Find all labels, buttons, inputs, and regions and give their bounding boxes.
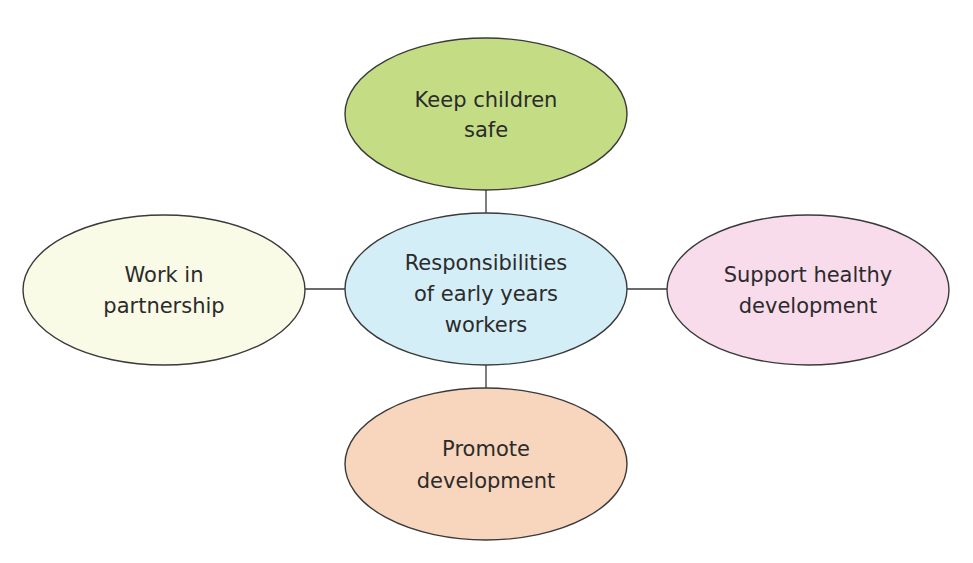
node-label-line: Keep children [415,88,558,112]
mind-map-diagram: Keep children safe Work in partnership R… [0,0,973,563]
node-label-line: Responsibilities [405,251,568,275]
node-center-responsibilities: Responsibilities of early years workers [345,213,627,365]
node-label-line: development [739,294,878,318]
node-label-line: Support healthy [724,263,893,287]
node-label-line: partnership [103,294,224,318]
node-label-line: safe [464,118,508,142]
node-label-line: Promote [442,437,530,461]
node-label-line: of early years [414,282,558,306]
node-keep-children-safe: Keep children safe [345,38,627,190]
node-support-healthy-development: Support healthy development [667,215,949,365]
node-label-line: Work in [125,263,204,287]
node-label-line: development [417,469,556,493]
node-promote-development: Promote development [345,388,627,540]
node-label-line: workers [445,313,528,337]
node-work-in-partnership: Work in partnership [23,215,305,365]
